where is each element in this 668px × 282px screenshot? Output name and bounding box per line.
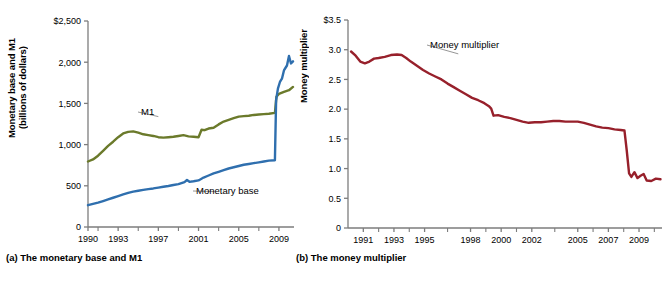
x-tick-label: 2005	[568, 235, 588, 245]
y-tick-label: 2,000	[58, 58, 81, 68]
panel-monetary-base-and-m1: Monetary base and M1 (billions of dollar…	[0, 0, 300, 282]
y-tick-label: 0	[76, 222, 81, 232]
y-tick-label: 1,500	[58, 99, 81, 109]
y-tick-label: 2.5	[328, 75, 341, 85]
panel-a-plot: $2,5002,0001,5001,0005000199019931997200…	[0, 0, 300, 250]
x-tick-label: 2000	[491, 235, 511, 245]
series-line-m1	[88, 87, 293, 162]
x-tick-label: 1993	[108, 234, 128, 244]
x-tick-label: 2005	[229, 234, 249, 244]
y-tick-label: 2.0	[328, 104, 341, 114]
y-tick-label: 1.0	[328, 164, 341, 174]
figure-container: Monetary base and M1 (billions of dollar…	[0, 0, 668, 282]
panel-money-multiplier: Money multiplier $3.53.02.52.01.51.00.50…	[296, 0, 668, 282]
y-tick-label: 1.5	[328, 134, 341, 144]
y-tick-label: 500	[66, 181, 81, 191]
x-tick-label: 2009	[629, 235, 649, 245]
x-tick-label: 1997	[148, 234, 168, 244]
panel-b-plot: $3.53.02.52.01.51.00.5019911993199519982…	[296, 0, 668, 250]
x-tick-label: 2009	[269, 234, 289, 244]
y-tick-label: $2,500	[53, 16, 81, 26]
x-tick-label: 1991	[353, 235, 373, 245]
annotation-label: Monetary base	[196, 185, 259, 196]
x-tick-label: 1990	[78, 234, 98, 244]
annotation-label: Money multiplier	[430, 39, 499, 50]
x-tick-label: 1998	[461, 235, 481, 245]
x-tick-label: 1993	[384, 235, 404, 245]
y-tick-label: 0.5	[328, 194, 341, 204]
x-tick-label: 2001	[189, 234, 209, 244]
y-tick-label: 0	[336, 223, 341, 233]
x-tick-label: 2007	[598, 235, 618, 245]
panel-b-caption: (b) The money multiplier	[296, 252, 406, 263]
series-line-money-multiplier	[351, 52, 660, 182]
y-tick-label: $3.5	[323, 15, 341, 25]
y-tick-label: 1,000	[58, 140, 81, 150]
y-tick-label: 3.0	[328, 45, 341, 55]
x-tick-label: 1995	[415, 235, 435, 245]
x-tick-label: 2002	[522, 235, 542, 245]
panel-a-caption: (a) The monetary base and M1	[6, 252, 142, 263]
series-line-monetary-base	[88, 56, 293, 205]
annotation-label: M1	[141, 106, 154, 117]
